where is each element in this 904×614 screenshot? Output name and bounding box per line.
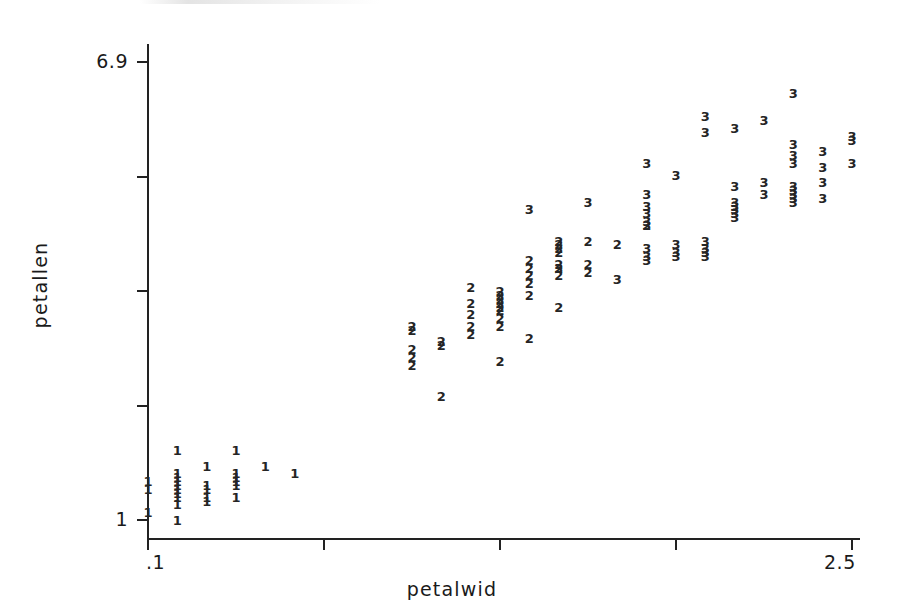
data-point-mark-1: 1 bbox=[173, 514, 182, 527]
data-point-mark-3: 3 bbox=[847, 156, 856, 169]
data-point-mark-3: 3 bbox=[789, 87, 798, 100]
data-point-mark-3: 3 bbox=[818, 160, 827, 173]
data-point-mark-3: 3 bbox=[759, 187, 768, 200]
data-point-mark-2: 2 bbox=[407, 358, 416, 371]
data-point-layer: 1111111111111111111111111122222222222222… bbox=[0, 0, 904, 614]
data-point-mark-1: 1 bbox=[231, 444, 240, 457]
data-point-mark-3: 3 bbox=[525, 203, 534, 216]
data-point-mark-1: 1 bbox=[290, 467, 299, 480]
data-point-mark-1: 1 bbox=[173, 444, 182, 457]
data-point-mark-3: 3 bbox=[583, 195, 592, 208]
data-point-mark-2: 2 bbox=[583, 265, 592, 278]
data-point-mark-3: 3 bbox=[847, 133, 856, 146]
data-point-mark-3: 3 bbox=[818, 191, 827, 204]
data-point-mark-1: 1 bbox=[143, 475, 152, 488]
data-point-mark-3: 3 bbox=[642, 156, 651, 169]
data-point-mark-2: 2 bbox=[495, 319, 504, 332]
data-point-mark-2: 2 bbox=[583, 234, 592, 247]
data-point-mark-2: 2 bbox=[407, 323, 416, 336]
data-point-mark-1: 1 bbox=[202, 459, 211, 472]
data-point-mark-3: 3 bbox=[730, 211, 739, 224]
data-point-mark-3: 3 bbox=[701, 125, 710, 138]
data-point-mark-3: 3 bbox=[730, 180, 739, 193]
data-point-mark-3: 3 bbox=[730, 121, 739, 134]
data-point-mark-3: 3 bbox=[818, 145, 827, 158]
data-point-mark-3: 3 bbox=[671, 250, 680, 263]
data-point-mark-3: 3 bbox=[642, 253, 651, 266]
scatter-plot-figure: 6.91 petallen .12.5 petalwid 11111111111… bbox=[0, 0, 904, 614]
data-point-mark-3: 3 bbox=[671, 168, 680, 181]
data-point-mark-3: 3 bbox=[789, 156, 798, 169]
data-point-mark-2: 2 bbox=[466, 281, 475, 294]
data-point-mark-3: 3 bbox=[818, 176, 827, 189]
data-point-mark-2: 2 bbox=[437, 389, 446, 402]
data-point-mark-2: 2 bbox=[613, 238, 622, 251]
data-point-mark-3: 3 bbox=[642, 219, 651, 232]
data-point-mark-2: 2 bbox=[437, 339, 446, 352]
data-point-mark-3: 3 bbox=[789, 195, 798, 208]
data-point-mark-1: 1 bbox=[143, 506, 152, 519]
data-point-mark-2: 2 bbox=[554, 300, 563, 313]
data-point-mark-2: 2 bbox=[525, 331, 534, 344]
data-point-mark-2: 2 bbox=[525, 288, 534, 301]
data-point-mark-3: 3 bbox=[701, 250, 710, 263]
data-point-mark-3: 3 bbox=[701, 110, 710, 123]
data-point-mark-1: 1 bbox=[231, 490, 240, 503]
data-point-mark-2: 2 bbox=[495, 354, 504, 367]
data-point-mark-1: 1 bbox=[261, 459, 270, 472]
data-point-mark-3: 3 bbox=[554, 261, 563, 274]
data-point-mark-1: 1 bbox=[202, 494, 211, 507]
data-point-mark-3: 3 bbox=[613, 273, 622, 286]
data-point-mark-3: 3 bbox=[759, 114, 768, 127]
data-point-mark-2: 2 bbox=[466, 327, 475, 340]
data-point-mark-1: 1 bbox=[173, 498, 182, 511]
